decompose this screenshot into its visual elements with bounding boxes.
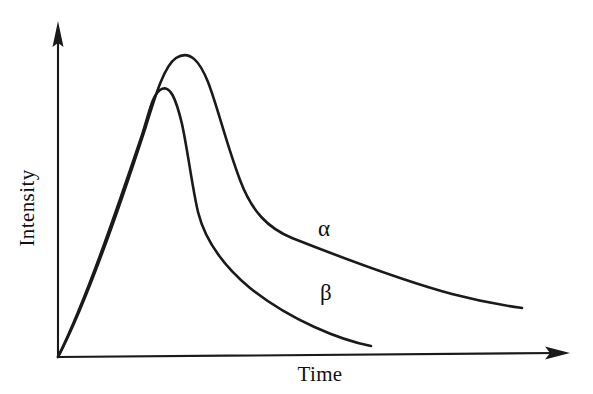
- y-axis-title: Intensity: [15, 169, 39, 246]
- figure-container: α β Time Intensity: [0, 0, 593, 394]
- series-label-alpha: α: [318, 216, 330, 241]
- series-label-beta: β: [320, 280, 332, 305]
- chart-canvas: α β Time Intensity: [0, 0, 593, 394]
- x-axis-title: Time: [297, 362, 342, 386]
- x-axis-line: [58, 353, 556, 357]
- curve-alpha: [58, 55, 522, 357]
- series-group: [58, 55, 522, 357]
- axis-group: [53, 21, 571, 360]
